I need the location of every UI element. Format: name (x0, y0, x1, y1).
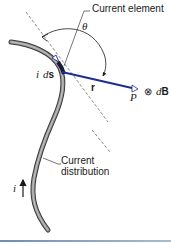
ids-s: s (49, 69, 55, 80)
current-direction-label: i (13, 183, 16, 194)
point-p-label: P (130, 92, 137, 103)
ids-label: i ds (36, 65, 54, 81)
db-B: B (162, 86, 169, 97)
current-element-label: Current element (92, 4, 164, 14)
figure-canvas (0, 0, 171, 244)
current-distribution-label: Current distribution (61, 155, 109, 177)
tangent-dashed-line-lower (92, 130, 110, 152)
biot-savart-figure: Current element θ i ds r P ⊗ dB Current … (0, 0, 171, 244)
r-label: r (91, 83, 95, 93)
current-distribution-line1: Current (61, 155, 109, 166)
current-distribution-leader (43, 158, 61, 164)
theta-label: θ (82, 21, 87, 32)
into-page-icon: ⊗ (144, 86, 152, 97)
db-label: ⊗ dB (144, 82, 169, 98)
ids-i: i (36, 68, 39, 80)
vector-r (62, 72, 138, 92)
current-distribution-line2: distribution (61, 166, 109, 177)
bottom-divider (0, 240, 171, 242)
